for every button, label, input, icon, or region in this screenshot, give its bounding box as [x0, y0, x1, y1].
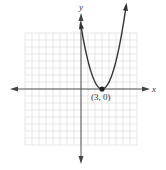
vertex-point — [99, 86, 104, 91]
graph: y x (3, 0) — [0, 0, 166, 170]
x-axis-right-arrow-icon — [142, 87, 150, 92]
y-axis-top-arrow-icon — [79, 13, 84, 21]
y-axis-bottom-arrow-icon — [79, 156, 84, 164]
vertex-label: (3, 0) — [91, 92, 111, 102]
x-axis-label: x — [151, 84, 156, 94]
y-axis-label: y — [78, 2, 83, 12]
curve-right-arrow-icon — [123, 3, 128, 11]
x-axis — [10, 87, 150, 92]
x-axis-left-arrow-icon — [10, 87, 18, 92]
parabola-curve — [79, 3, 128, 89]
